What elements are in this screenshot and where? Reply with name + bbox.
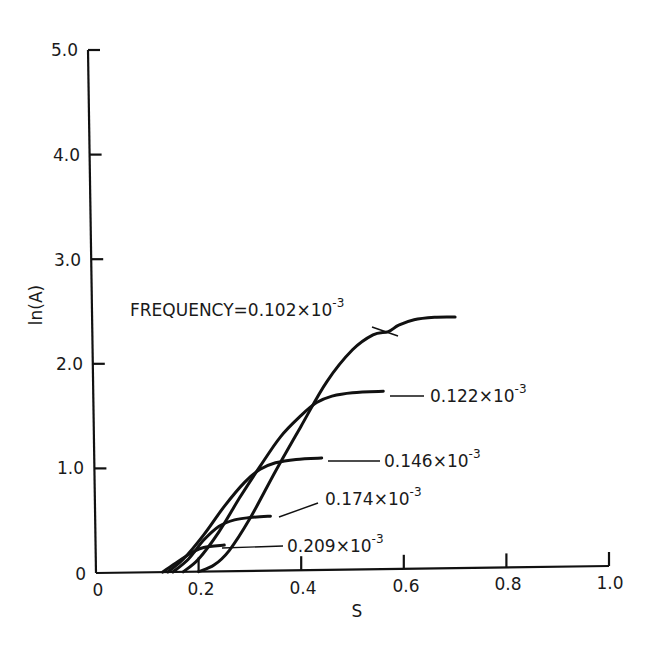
annotation-0146: 0.146×10-3 bbox=[384, 447, 481, 471]
y-axis-title: ln(A) bbox=[26, 285, 46, 325]
x-tick-labels: 0 0.2 0.4 0.6 0.8 1.0 bbox=[93, 573, 624, 600]
x-tick-label-5: 1.0 bbox=[596, 573, 623, 593]
annotation-0122: 0.122×10-3 bbox=[430, 382, 527, 406]
y-tick-label-5: 5.0 bbox=[51, 40, 78, 60]
x-tick-label-1: 0.2 bbox=[187, 579, 214, 599]
x-axis-title: S bbox=[352, 601, 363, 621]
annotation-0174: 0.174×10-3 bbox=[325, 485, 422, 509]
curve-series-0 bbox=[199, 317, 456, 572]
annotation-0209: 0.209×10-3 bbox=[287, 532, 384, 556]
annotations: FREQUENCY=0.102×10-3 0.122×10-3 0.146×10… bbox=[130, 296, 527, 556]
x-tick-label-0: 0 bbox=[93, 580, 104, 600]
curves bbox=[163, 317, 455, 572]
y-tick-label-2: 2.0 bbox=[56, 354, 83, 374]
y-axis-line bbox=[88, 50, 96, 573]
x-tick-label-2: 0.4 bbox=[289, 578, 316, 598]
y-tick-labels: 5.0 4.0 3.0 2.0 1.0 0 bbox=[51, 40, 86, 584]
leader-0174 bbox=[279, 503, 318, 517]
x-tick-label-3: 0.6 bbox=[392, 576, 419, 596]
y-tick-label-1: 1.0 bbox=[57, 458, 84, 478]
y-tick-label-3: 3.0 bbox=[54, 250, 81, 270]
annotation-0102: FREQUENCY=0.102×10-3 bbox=[130, 296, 344, 320]
chart: 5.0 4.0 3.0 2.0 1.0 0 0 0.2 0.4 0.6 0.8 … bbox=[0, 0, 649, 652]
x-tick-label-4: 0.8 bbox=[494, 574, 521, 594]
x-ticks bbox=[199, 552, 609, 572]
y-tick-label-4: 4.0 bbox=[53, 145, 80, 165]
y-tick-label-0: 0 bbox=[75, 564, 86, 584]
